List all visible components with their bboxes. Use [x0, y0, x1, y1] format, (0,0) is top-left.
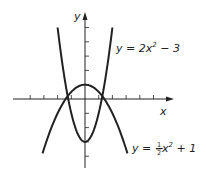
curve2-label: y = − 1 2 x2 + 1	[131, 141, 196, 157]
curve1-label-text: y = 2x2 − 3	[115, 41, 180, 55]
x-axis-arrow-icon	[166, 97, 174, 102]
x-axis-label: x	[159, 105, 167, 118]
curve2-frac-num: 1	[157, 141, 161, 149]
curve1-label: y = 2x2 − 3	[115, 41, 180, 55]
curve2-frac-den: 2	[157, 149, 161, 157]
chart: y x y = 2x2 − 3 y = − 1 2 x2 + 1	[0, 0, 206, 174]
y-axis-arrow-icon	[83, 12, 88, 20]
y-axis-label: y	[73, 10, 81, 23]
curve2-label-rest: x2 + 1	[161, 141, 196, 155]
